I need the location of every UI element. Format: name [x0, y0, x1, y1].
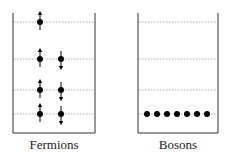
spin-down-fermion — [58, 51, 64, 70]
spin-down-fermion — [58, 82, 64, 101]
boson-particle — [204, 111, 210, 117]
boson-particle — [174, 111, 180, 117]
arrow-up-icon — [38, 79, 42, 83]
boson-particle — [184, 111, 190, 117]
arrow-down-icon — [59, 66, 63, 70]
boson-particle — [164, 111, 170, 117]
spin-up-fermion — [37, 79, 43, 98]
boson-particle — [154, 111, 160, 117]
boson-particle — [144, 111, 150, 117]
fermion-energy-levels — [14, 22, 94, 114]
boson-particle — [194, 111, 200, 117]
arrow-down-icon — [59, 121, 63, 125]
fermions-bosons-diagram — [0, 0, 233, 158]
arrow-up-icon — [38, 103, 42, 107]
boson-energy-levels — [139, 22, 217, 114]
spin-up-fermion — [37, 103, 43, 122]
fermions-well — [13, 11, 95, 133]
arrow-up-icon — [38, 11, 42, 15]
arrow-up-icon — [38, 48, 42, 52]
fermions-label: Fermions — [9, 137, 99, 153]
fermion-particles — [37, 11, 64, 125]
spin-down-fermion — [58, 106, 64, 125]
bosons-well — [138, 13, 218, 133]
spin-up-fermion — [37, 48, 43, 67]
bosons-label: Bosons — [133, 137, 223, 153]
arrow-down-icon — [59, 97, 63, 101]
spin-up-fermion — [37, 11, 43, 30]
